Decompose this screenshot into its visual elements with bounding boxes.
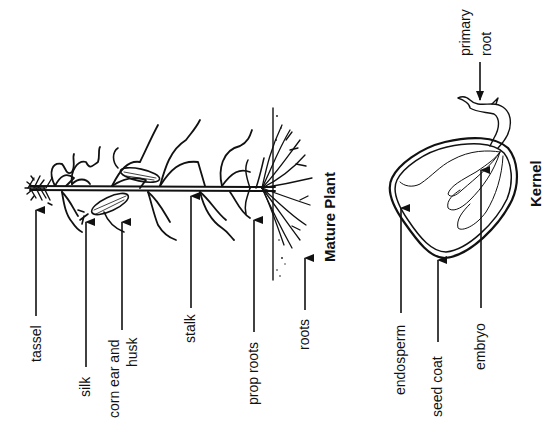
kernel-drawing bbox=[390, 97, 517, 258]
leaf-icon bbox=[51, 120, 252, 188]
label-stalk: stalk bbox=[183, 314, 198, 343]
label-corn-ear-line2: husk bbox=[125, 337, 140, 367]
label-prop-roots: prop roots bbox=[246, 342, 261, 405]
endosperm-line bbox=[400, 151, 500, 186]
corn-plant-diagram: tassel silk corn ear and husk stalk prop… bbox=[0, 0, 547, 432]
roots-icon bbox=[262, 125, 312, 248]
label-primary-root-line1: primary bbox=[458, 9, 473, 56]
label-silk: silk bbox=[78, 377, 93, 397]
label-roots: roots bbox=[297, 319, 312, 350]
primary-root-icon bbox=[458, 97, 510, 148]
mature-plant-title: Mature Plant bbox=[321, 172, 338, 262]
mature-plant-drawing bbox=[25, 108, 312, 280]
label-embryo: embryo bbox=[473, 323, 488, 370]
diagram-drawing bbox=[0, 0, 547, 432]
label-corn-ear-line1: corn ear and bbox=[107, 339, 122, 418]
stalk-icon bbox=[30, 186, 275, 191]
label-seed-coat: seed coat bbox=[430, 356, 445, 417]
kernel-title: Kernel bbox=[527, 160, 544, 207]
embryo-icon bbox=[448, 152, 500, 196]
label-endosperm: endosperm bbox=[393, 325, 408, 395]
label-primary-root-line2: root bbox=[479, 32, 494, 56]
label-tassel: tassel bbox=[29, 325, 44, 362]
leaf-icon bbox=[62, 192, 250, 240]
